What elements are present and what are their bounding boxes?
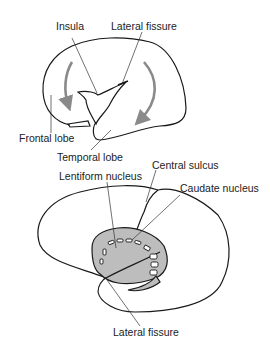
frontal-base bbox=[68, 121, 90, 127]
label-temporal-lobe: Temporal lobe bbox=[57, 151, 123, 163]
insula-outline bbox=[78, 82, 126, 124]
label-insula: Insula bbox=[56, 20, 84, 32]
bottom-brain-hemisphere bbox=[38, 186, 229, 312]
frontal-arrow-icon bbox=[65, 62, 72, 104]
rotation-arrows bbox=[65, 62, 154, 120]
label-central-sulcus: Central sulcus bbox=[152, 159, 219, 171]
label-lateral-fissure-top: Lateral fissure bbox=[111, 20, 177, 32]
label-lateral-fissure-bottom: Lateral fissure bbox=[113, 326, 179, 338]
brain-development-diagram: Insula Lateral fissure Frontal lobe Temp… bbox=[0, 0, 270, 347]
label-caudate-nucleus: Caudate nucleus bbox=[180, 182, 259, 194]
temporal-arrow-icon bbox=[140, 62, 155, 120]
label-lentiform-nucleus: Lentiform nucleus bbox=[59, 170, 142, 182]
label-frontal-lobe: Frontal lobe bbox=[19, 132, 74, 144]
